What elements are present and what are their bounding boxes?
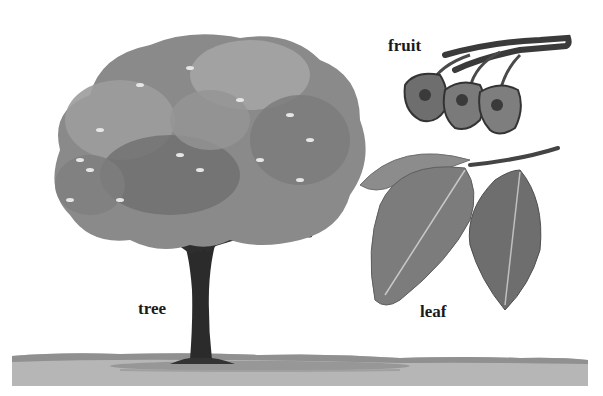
fruit-label: fruit [388, 37, 421, 54]
tree-illustration: fruit tree leaf [0, 0, 603, 396]
tree-canopy [54, 34, 365, 249]
fruit-cluster [405, 38, 569, 134]
tree-label: tree [138, 300, 166, 317]
leaf-label: leaf [420, 303, 446, 320]
ground [12, 353, 588, 386]
leaf-branch [360, 148, 558, 310]
